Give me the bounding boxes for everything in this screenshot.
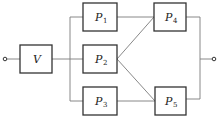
block-p1-label: P: [94, 11, 103, 24]
wire-p2-to-p4: [117, 17, 154, 59]
block-p2-label: P: [94, 53, 103, 66]
block-v-label: V: [33, 53, 42, 66]
block-p5-label: P: [164, 95, 173, 108]
output-terminal: [212, 57, 216, 61]
block-v: V: [20, 45, 52, 73]
block-p1-subscript: 1: [103, 17, 107, 25]
input-terminal: [3, 57, 7, 61]
block-p4-label: P: [164, 11, 173, 24]
block-p3-label: P: [94, 95, 103, 108]
block-p3-subscript: 3: [103, 101, 107, 109]
block-p3: P 3: [83, 87, 117, 115]
block-p2: P 2: [83, 45, 117, 73]
block-p2-subscript: 2: [103, 59, 107, 67]
block-p1: P 1: [83, 3, 117, 31]
wire-p2-to-p5: [117, 59, 155, 101]
block-diagram: V P 1 P 2 P 3 P 4 P 5: [0, 0, 218, 121]
block-p5-subscript: 5: [173, 101, 177, 109]
block-p4-subscript: 4: [173, 17, 178, 25]
block-p4: P 4: [154, 3, 186, 31]
block-p5: P 5: [155, 87, 186, 115]
